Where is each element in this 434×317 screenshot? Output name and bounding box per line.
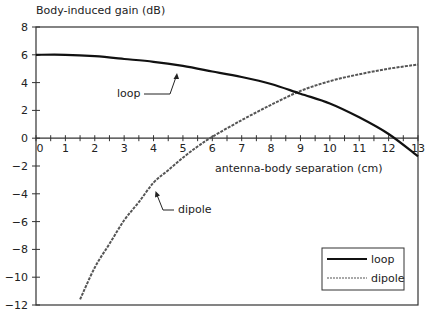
loop-annotation: loop — [117, 87, 141, 100]
legend-loop: loop — [371, 253, 395, 266]
x-tick-label: 9 — [297, 142, 304, 155]
y-axis-label: Body-induced gain (dB) — [36, 4, 165, 17]
y-tick-label: 0 — [21, 132, 28, 145]
y-tick-label: −8 — [12, 243, 28, 256]
y-tick-label: 6 — [21, 49, 28, 62]
x-tick-label: 7 — [238, 142, 245, 155]
x-tick-label: 3 — [121, 142, 128, 155]
x-tick-label: 6 — [209, 142, 216, 155]
y-tick-label: 2 — [21, 104, 28, 117]
x-tick-label: 2 — [91, 142, 98, 155]
x-tick-label: 8 — [268, 142, 275, 155]
y-tick-label: 4 — [21, 77, 28, 90]
x-axis-label: antenna-body separation (cm) — [215, 162, 383, 175]
y-tick-label: −6 — [12, 216, 28, 229]
y-tick-label: −2 — [12, 160, 28, 173]
chart: Body-induced gain (dB) 86420−2−4−6−8−10−… — [0, 0, 434, 317]
x-tick-label: 4 — [150, 142, 157, 155]
legend: loop dipole — [322, 248, 405, 290]
dipole-annotation-arrow — [157, 195, 174, 210]
dipole-annotation: dipole — [178, 203, 212, 216]
y-axis-ticks: 86420−2−4−6−8−10−12 — [5, 21, 40, 312]
y-tick-label: −12 — [5, 299, 28, 312]
y-tick-label: −4 — [12, 188, 28, 201]
x-tick-label: 12 — [382, 142, 396, 155]
x-tick-label: 0 — [37, 142, 44, 155]
legend-dipole: dipole — [371, 272, 405, 285]
x-tick-label: 5 — [179, 142, 186, 155]
x-axis: 012345678910111213 — [36, 135, 425, 155]
y-tick-label: 8 — [21, 21, 28, 34]
x-tick-label: 11 — [352, 142, 366, 155]
x-tick-label: 1 — [62, 142, 69, 155]
y-tick-label: −10 — [5, 271, 28, 284]
arrowhead-icon — [174, 73, 180, 79]
x-tick-label: 10 — [323, 142, 337, 155]
loop-annotation-arrow — [144, 77, 176, 94]
